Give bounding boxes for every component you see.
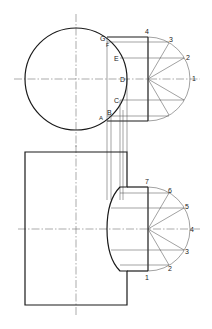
label-bottom-2: 2 bbox=[168, 265, 172, 272]
label-bottom-5: 5 bbox=[185, 203, 189, 210]
label-A: A bbox=[99, 115, 103, 121]
radial-line bbox=[148, 193, 169, 229]
label-G: G bbox=[100, 35, 105, 42]
label-top-3: 3 bbox=[169, 36, 173, 43]
label-top-4: 4 bbox=[145, 28, 149, 35]
label-bottom-3: 3 bbox=[185, 248, 189, 255]
label-C: C bbox=[114, 97, 119, 104]
label-E: E bbox=[114, 55, 119, 62]
label-B: B bbox=[107, 109, 112, 116]
label-bottom-7: 7 bbox=[145, 178, 149, 185]
radial-line bbox=[148, 43, 169, 79]
label-bottom-4: 4 bbox=[190, 226, 194, 233]
label-bottom-6: 6 bbox=[168, 187, 172, 194]
radial-line bbox=[148, 79, 169, 115]
label-bottom-1: 1 bbox=[145, 274, 149, 281]
radial-line bbox=[148, 79, 184, 100]
front-view: 7 6 5 4 3 2 1 bbox=[18, 145, 200, 316]
top-view: G F E D C B A 4 3 2 1 bbox=[14, 14, 200, 200]
label-F: F bbox=[106, 42, 109, 48]
technical-drawing: G F E D C B A 4 3 2 1 7 6 5 4 3 2 1 bbox=[0, 0, 212, 329]
radial-line bbox=[148, 208, 184, 229]
label-top-1: 1 bbox=[192, 75, 196, 82]
radial-line bbox=[148, 58, 184, 79]
label-top-2: 2 bbox=[186, 54, 190, 61]
radial-line bbox=[148, 229, 169, 265]
label-D: D bbox=[120, 76, 125, 83]
radial-line bbox=[148, 229, 184, 250]
